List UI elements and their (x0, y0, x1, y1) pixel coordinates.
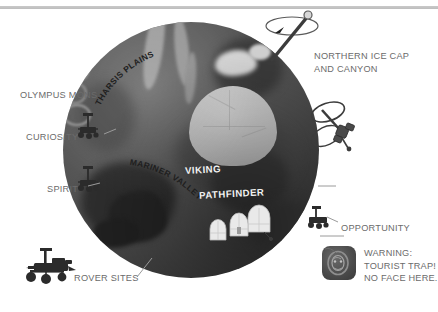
mars-map-infographic: THARSIS PLAINS MARINER VALLEY VIKING PAT… (0, 0, 438, 312)
orbiter-satellite-icon (306, 96, 362, 158)
callout-spirit: SPIRIT (47, 183, 78, 196)
callout-curiosity: CURIOSITY (26, 131, 78, 144)
callout-opportunity: OPPORTUNITY (341, 222, 410, 235)
rover-icon (76, 113, 102, 145)
rover-icon (76, 166, 102, 198)
callout-northern-ice-cap: NORTHERN ICE CAP AND CANYON (314, 50, 409, 75)
top-divider-rule (0, 6, 438, 9)
warning-text: WARNING: TOURIST TRAP! NO FACE HERE. (364, 247, 438, 285)
habitat-domes-icon (204, 202, 284, 242)
callout-olympus-mons: OLYMPUS MONS (20, 89, 97, 102)
surface-label-viking: VIKING (185, 163, 222, 176)
callout-rover-sites: ROVER SITES (74, 272, 139, 285)
face-on-mars-icon (322, 246, 356, 280)
rover-icon (306, 206, 334, 234)
rover-legend-icon (22, 246, 80, 296)
